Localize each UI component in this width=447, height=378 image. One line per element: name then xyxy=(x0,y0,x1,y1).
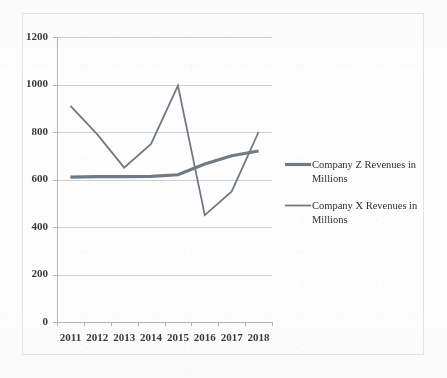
series-line-company-x xyxy=(70,86,258,215)
gridlines xyxy=(57,38,272,323)
x-tick-label-2016: 2016 xyxy=(194,331,217,343)
y-tick-label-0: 0 xyxy=(43,315,49,327)
series-line-company-z xyxy=(70,151,258,177)
line-chart: 020040060080010001200 201120122013201420… xyxy=(0,0,447,378)
x-tick-label-2018: 2018 xyxy=(248,331,271,343)
y-tick-label-200: 200 xyxy=(32,267,49,279)
legend-label-company-z[interactable]: Company Z Revenues in xyxy=(312,159,417,170)
x-axis-tick-labels: 20112012201320142015201620172018 xyxy=(60,331,270,343)
y-tick-label-400: 400 xyxy=(32,220,49,232)
y-tick-label-1000: 1000 xyxy=(26,77,49,89)
axis-ticks xyxy=(53,38,273,327)
x-tick-label-2014: 2014 xyxy=(140,331,163,343)
x-tick-label-2012: 2012 xyxy=(86,331,109,343)
legend-label-company-x[interactable]: Company X Revenues in xyxy=(312,200,418,211)
chart-canvas: 020040060080010001200 201120122013201420… xyxy=(0,0,447,378)
x-tick-label-2017: 2017 xyxy=(221,331,244,343)
legend-label-company-x-line2[interactable]: Millions xyxy=(312,214,348,225)
y-tick-label-1200: 1200 xyxy=(26,30,49,42)
x-tick-label-2015: 2015 xyxy=(167,331,190,343)
y-tick-label-800: 800 xyxy=(32,125,49,137)
legend-label-company-z-line2[interactable]: Millions xyxy=(312,173,348,184)
y-tick-label-600: 600 xyxy=(32,172,49,184)
y-axis-tick-labels: 020040060080010001200 xyxy=(26,30,49,327)
data-series xyxy=(70,86,258,215)
chart-legend[interactable]: Company Z Revenues inMillionsCompany X R… xyxy=(285,159,418,225)
x-tick-label-2011: 2011 xyxy=(60,331,81,343)
x-tick-label-2013: 2013 xyxy=(113,331,136,343)
